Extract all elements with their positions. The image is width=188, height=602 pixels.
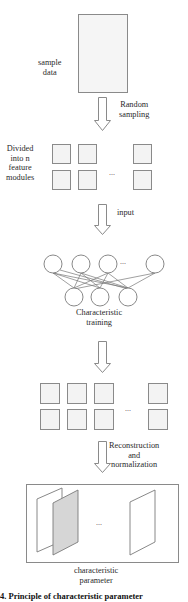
down-arrow-1 <box>95 98 111 131</box>
input-node <box>99 255 117 273</box>
input-node <box>44 255 62 273</box>
characteristic-parameter-label: characteristic parameter <box>74 566 118 585</box>
grid2-ellipsis: ... <box>125 404 131 413</box>
random-sampling-label: Random sampling <box>119 100 149 119</box>
modules-ellipsis: ... <box>109 168 115 177</box>
characteristic-training-label: Characteristic training <box>76 308 122 327</box>
reconstruction-label: Reconstruction and normalization <box>109 441 159 470</box>
hidden-node <box>91 288 109 306</box>
down-arrow-2 <box>95 205 111 235</box>
network-ellipsis: ... <box>120 257 126 266</box>
figure-caption: 4. Principle of characteristic parameter <box>0 591 143 601</box>
sample-data-block <box>79 15 128 93</box>
divided-modules-label: Divided into n feature modules <box>6 144 34 182</box>
neural-network <box>53 270 155 289</box>
hidden-node <box>119 288 137 306</box>
sample-data-label: sample data <box>38 58 62 77</box>
down-arrow-3 <box>95 342 111 373</box>
input-node <box>72 255 90 273</box>
trained-modules-grid <box>41 384 168 430</box>
hidden-node <box>65 288 83 306</box>
flow-diagram <box>0 0 188 602</box>
feature-modules-grid <box>53 145 152 190</box>
params-ellipsis: ... <box>96 518 102 527</box>
input-label: input <box>117 208 134 218</box>
input-node <box>146 255 164 273</box>
